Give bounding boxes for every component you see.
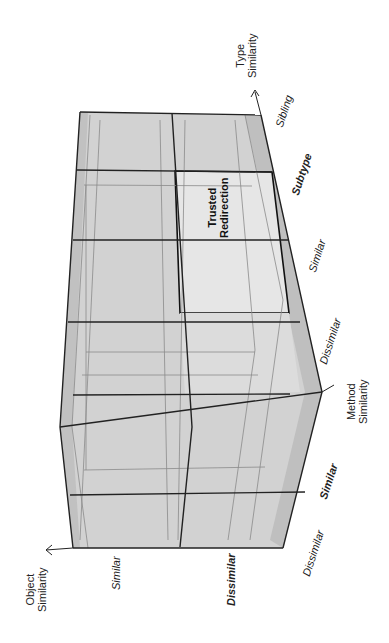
- object-tick-similar: Similar: [110, 556, 122, 590]
- type-axis-line: [255, 92, 261, 115]
- cube-inner-cell: [180, 313, 300, 395]
- highlighted-cell-trusted-redirection: [175, 171, 289, 313]
- method-axis-title: Method Similarity: [345, 379, 369, 424]
- object-axis-title: Object Similarity: [24, 567, 48, 612]
- object-axis-line: [46, 548, 73, 550]
- object-tick-dissimilar: Dissimilar: [225, 553, 237, 606]
- type-axis-title: Type Similarity: [234, 33, 258, 78]
- method-axis-line: [322, 385, 334, 392]
- cell-label-trusted-redirection: Trusted Redirection: [206, 177, 230, 238]
